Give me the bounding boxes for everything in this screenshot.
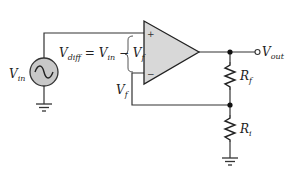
label-vdiff: Vdiff = Vin − Vf — [59, 46, 146, 62]
label-vf: Vf — [116, 83, 130, 99]
resistor-rf — [225, 62, 235, 90]
label-vout: Vout — [262, 45, 285, 61]
junction-output — [227, 49, 232, 54]
label-ri: Ri — [239, 122, 252, 138]
ground-ri — [222, 158, 238, 165]
label-rf: Rf — [239, 69, 254, 85]
plus-sign: + — [147, 29, 155, 39]
resistor-ri — [225, 115, 235, 142]
ground-vin — [36, 104, 52, 111]
output-terminal — [255, 50, 260, 55]
circuit-diagram: + − Vin Vdiff = Vin − Vf Vf Vout Rf Ri — [0, 0, 296, 180]
minus-sign: − — [147, 69, 155, 79]
label-vin: Vin — [9, 67, 25, 83]
ac-source — [30, 58, 58, 86]
junction-feedback — [227, 102, 232, 107]
